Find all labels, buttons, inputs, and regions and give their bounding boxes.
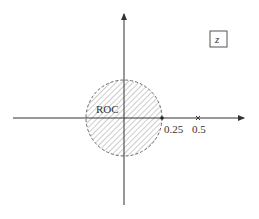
roc-label: ROC <box>96 103 119 115</box>
z-plane-diagram: ROC 0.25 0.5 z <box>0 0 259 219</box>
marker-label-0-25: 0.25 <box>164 123 184 135</box>
marker-label-0-5: 0.5 <box>192 123 206 135</box>
plane-label: z <box>214 33 220 45</box>
marker-dot-icon <box>160 116 164 120</box>
